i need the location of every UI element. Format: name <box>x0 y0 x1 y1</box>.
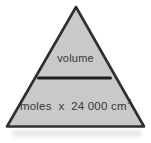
numerator-label: volume <box>0 52 151 64</box>
scan-shadow <box>12 131 142 136</box>
denominator-exponent: 3 <box>127 97 131 106</box>
denominator-label: moles x 24 000 cm3 <box>0 98 151 112</box>
formula-triangle-diagram <box>0 0 151 143</box>
figure-canvas: volume moles x 24 000 cm3 <box>0 0 151 143</box>
denominator-text: moles x 24 000 cm <box>20 100 127 112</box>
